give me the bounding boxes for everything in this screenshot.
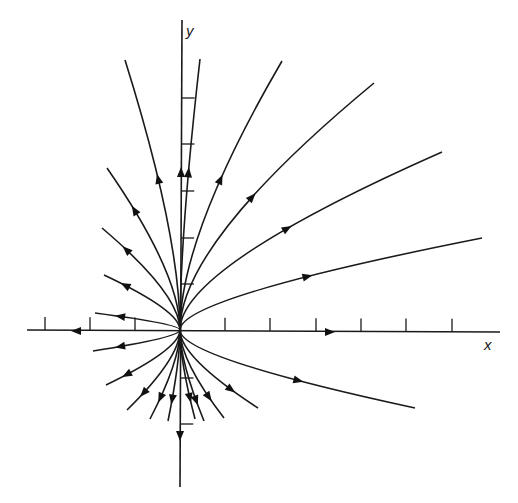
arrow-icon [158, 392, 166, 403]
y-axis-label: y [185, 22, 195, 39]
x-axis-left-arrow [71, 327, 81, 335]
trajectory-t-down-right-5 [180, 330, 415, 408]
arrow-icon [115, 313, 125, 321]
arrow-icon [225, 383, 235, 392]
phase-portrait-diagram: x y [0, 0, 518, 503]
trajectory-t-up-left-4 [104, 275, 180, 330]
trajectory-t-down-left-1 [93, 330, 180, 351]
trajectory-t-up-left-2 [107, 168, 180, 330]
trajectory-t-up-near [180, 59, 200, 330]
arrow-icon [281, 226, 292, 234]
axis-arrows [71, 167, 335, 441]
y-axis-up-arrow [177, 167, 185, 177]
arrow-icon [122, 369, 133, 377]
trajectory-t-down-right-3 [180, 330, 224, 418]
arrow-icon [215, 175, 223, 186]
arrow-icon [203, 391, 212, 402]
arrow-icon [169, 394, 177, 405]
trajectory-t-up-left-5 [95, 313, 180, 330]
x-axis-label: x [483, 336, 492, 353]
axes: x y [27, 20, 500, 487]
arrow-icon [115, 342, 126, 350]
arrow-icon [121, 283, 132, 291]
trajectories [93, 59, 482, 421]
x-axis [27, 330, 500, 332]
trajectory-t-up-right-4 [180, 238, 482, 330]
arrow-icon [293, 375, 304, 383]
axis-ticks [45, 98, 452, 424]
arrow-icon [132, 206, 141, 217]
y-axis-down-arrow [176, 431, 184, 441]
x-axis-right-arrow [325, 328, 335, 336]
